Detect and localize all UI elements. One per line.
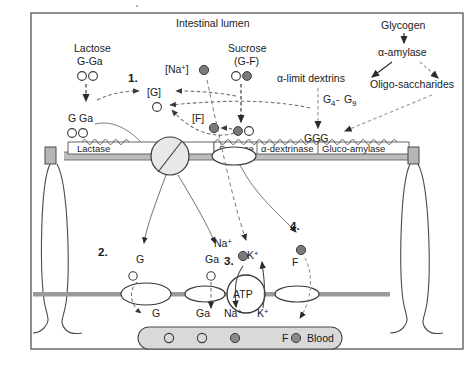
cytosol-glucose-circle bbox=[129, 272, 137, 280]
product-galactose-circle bbox=[79, 129, 88, 138]
arrow-lactase-product-to-lumen-glucose bbox=[97, 91, 139, 100]
arrow-oligosaccharides-to-ggg bbox=[345, 95, 432, 131]
lactose-glucose-circle bbox=[78, 72, 87, 81]
blood-fructose-circle bbox=[291, 333, 300, 342]
basolateral-potassium-label: K+ bbox=[257, 307, 269, 320]
cytosol-sodium-label: Na+ bbox=[214, 237, 232, 250]
blood-sodium-circle bbox=[230, 333, 239, 342]
alpha-amylase-label: α-amylase bbox=[378, 46, 427, 58]
neighbor-cell-left-outer bbox=[33, 164, 50, 333]
product-glucose-circle bbox=[68, 129, 77, 138]
tight-junction-right bbox=[408, 147, 419, 164]
lumen-sodium-circle bbox=[199, 65, 208, 74]
sucrose-label: Sucrose bbox=[228, 42, 267, 54]
blood-galactose-circle bbox=[197, 333, 206, 342]
range-dash: - bbox=[336, 93, 340, 105]
neighbor-cell-left-inner bbox=[57, 164, 82, 334]
basolateral-galactose-label: Ga bbox=[196, 307, 210, 319]
glut2-glucose-carrier bbox=[121, 283, 171, 305]
arrow-sucrase-to-lumen-glucose bbox=[176, 91, 236, 96]
g9-base: G bbox=[344, 93, 352, 105]
step-3-number: 3. bbox=[224, 255, 234, 267]
arrow-amylase-to-dextrins bbox=[372, 62, 392, 77]
neighbor-cell-right-inner bbox=[418, 164, 443, 334]
path-fructose-into-cytosol bbox=[240, 165, 296, 232]
blood-fructose-label: F bbox=[282, 332, 288, 344]
enzyme-label-lactase: Lactase bbox=[77, 143, 110, 154]
basolateral-fructose-carrier bbox=[275, 286, 319, 302]
step-1-number: 1. bbox=[128, 72, 138, 84]
arrow-amylase-to-oligosaccharides bbox=[420, 62, 438, 78]
oligosaccharides-label: Oligo-saccharides bbox=[370, 78, 454, 90]
cytosol-fructose-label: F bbox=[292, 256, 298, 268]
cytosol-glucose-label: G bbox=[136, 253, 144, 265]
dextrin-size-range: G 4 - G 9 bbox=[323, 93, 357, 108]
page-title: Intestinal lumen bbox=[176, 17, 250, 29]
step-4-number: 4. bbox=[290, 220, 300, 232]
lactose-formula: G-Ga bbox=[77, 55, 103, 67]
lumen-sodium-bracket-label: [Na+] bbox=[165, 63, 189, 76]
lumen-glucose-circle bbox=[153, 103, 162, 112]
lumen-fructose-bracket-label: [F] bbox=[192, 112, 204, 124]
path-glucose-into-cytosol bbox=[144, 175, 166, 243]
g9-subscript: 9 bbox=[352, 99, 357, 108]
digestion-absorption-diagram: Intestinal lumen Lactose G-Ga Sucrose (G… bbox=[0, 0, 475, 370]
speck-mark bbox=[136, 5, 138, 7]
enzyme-label-alpha-dextrinase: α-dextrinase bbox=[261, 143, 314, 154]
basolateral-sodium-label: Na+ bbox=[224, 307, 242, 320]
g4-base: G bbox=[323, 93, 331, 105]
sucrose-glucose-circle bbox=[232, 72, 241, 81]
basolateral-glucose-label: G bbox=[152, 307, 160, 319]
arrow-ggg-to-lumen-glucose bbox=[170, 101, 310, 108]
tight-junction-left bbox=[45, 147, 56, 164]
basolateral-galactose-carrier bbox=[185, 286, 225, 302]
cytosol-potassium-label: K+ bbox=[247, 249, 259, 262]
glycogen-label: Glycogen bbox=[381, 19, 426, 31]
enzyme-label-gluco-amylase: Gluco-amylase bbox=[322, 143, 385, 154]
sucrose-formula: (G-F) bbox=[234, 55, 259, 67]
lumen-glucose-bracket-label: [G] bbox=[147, 86, 161, 98]
apical-fructose-carrier bbox=[212, 147, 256, 165]
path-galactose-into-cytosol bbox=[178, 175, 215, 243]
cytosol-fructose-circle bbox=[296, 245, 305, 254]
blood-label: Blood bbox=[307, 332, 334, 344]
step-2-number: 2. bbox=[98, 246, 108, 258]
sglt-cotransporter bbox=[151, 137, 189, 175]
sucrose-product-glucose bbox=[245, 127, 254, 136]
blood-glucose-circle bbox=[164, 333, 173, 342]
lactose-galactose-circle bbox=[89, 72, 98, 81]
neighbor-cell-right-outer bbox=[390, 164, 410, 333]
figure-root: Intestinal lumen Lactose G-Ga Sucrose (G… bbox=[0, 0, 475, 370]
lactose-label: Lactose bbox=[74, 42, 111, 54]
sucrose-fructose-circle bbox=[243, 72, 252, 81]
alpha-limit-dextrins-label: α-limit dextrins bbox=[277, 72, 345, 84]
cytosol-galactose-circle bbox=[207, 272, 215, 280]
blood-capillary: F Blood bbox=[138, 327, 342, 349]
arrow-fructose-to-bracket-f bbox=[221, 128, 232, 129]
lactase-products-label: G Ga bbox=[68, 112, 93, 124]
cytosol-galactose-label: Ga bbox=[205, 253, 219, 265]
sucrose-product-fructose bbox=[234, 127, 243, 136]
